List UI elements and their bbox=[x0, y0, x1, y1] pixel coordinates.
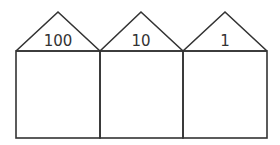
label-ones: 1 bbox=[220, 32, 230, 50]
box-ones bbox=[183, 51, 267, 138]
place-value-diagram: 100 10 1 bbox=[0, 0, 280, 145]
label-tens: 10 bbox=[131, 32, 150, 50]
label-hundreds: 100 bbox=[44, 32, 73, 50]
box-tens bbox=[100, 51, 183, 138]
box-hundreds bbox=[16, 51, 100, 138]
